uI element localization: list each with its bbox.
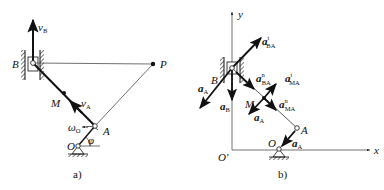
accel-ma-tangential-arrow xyxy=(264,84,276,98)
label-a: A xyxy=(300,124,308,136)
label-aa-at-b: aA xyxy=(198,82,209,95)
label-o: O xyxy=(67,140,75,152)
label-p: P xyxy=(159,58,167,70)
label-m: M xyxy=(50,97,61,109)
origin-label: O′ xyxy=(218,151,229,163)
label-va: vA xyxy=(81,97,91,110)
caption-b: b) xyxy=(278,168,288,181)
pin-a xyxy=(93,124,98,129)
label-aba-t: atBA xyxy=(262,34,276,49)
right-wall-hatch xyxy=(40,50,44,80)
label-ama-n: anMA xyxy=(279,97,296,112)
pin-b xyxy=(31,61,36,66)
label-omega: ωO xyxy=(68,121,81,134)
label-aa: aA xyxy=(292,137,303,150)
accel-ma-normal-arrow xyxy=(264,98,276,110)
label-a: A xyxy=(102,125,110,137)
label-phi: φ xyxy=(88,134,94,146)
caption-a: a) xyxy=(73,168,82,181)
accel-ba-tangential-arrow xyxy=(232,38,261,68)
point-m xyxy=(62,91,66,95)
pin-o xyxy=(76,144,80,148)
axis-label-x: x xyxy=(373,144,379,156)
label-vb: vB xyxy=(38,21,48,34)
label-b: B xyxy=(211,74,218,86)
label-m: M xyxy=(244,98,255,110)
label-b: B xyxy=(12,58,19,70)
figure-a: B P M A O φ vB vA ωO a) xyxy=(12,20,167,181)
mechanism-diagram: B P M A O φ vB vA ωO a) y x O′ xyxy=(0,0,384,190)
axis-label-y: y xyxy=(237,8,243,20)
accel-ba-normal-arrow xyxy=(236,72,254,89)
label-ama-t: atMA xyxy=(285,71,300,86)
point-p xyxy=(151,62,155,66)
figure-b: y x O′ B M xyxy=(198,8,379,181)
label-ab: aB xyxy=(220,100,231,113)
left-wall-hatch xyxy=(21,50,25,80)
label-o: O xyxy=(268,137,276,149)
point-m xyxy=(262,96,266,100)
pin-a xyxy=(295,126,300,131)
pin-o xyxy=(277,147,281,151)
label-aba-n: anBA xyxy=(256,71,271,86)
label-aa-at-m: aA xyxy=(254,111,265,124)
